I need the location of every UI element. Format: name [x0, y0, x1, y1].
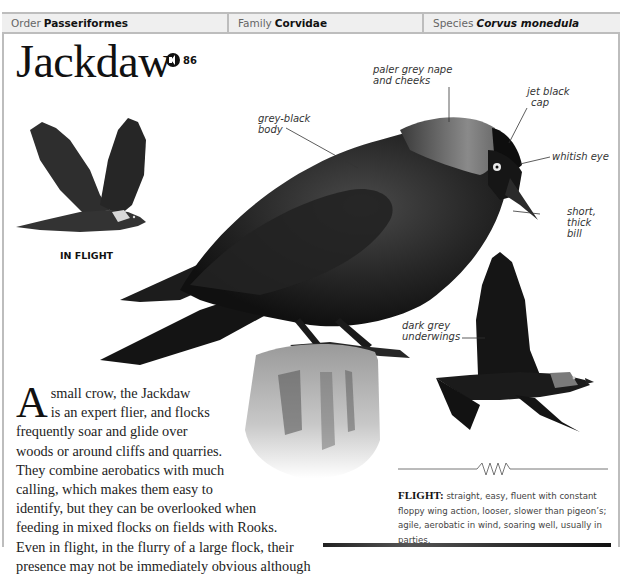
callout-nape-line2: and cheeks	[373, 75, 430, 86]
callout-bill-line3: bill	[567, 228, 582, 239]
callout-underwings-line1: dark grey	[402, 320, 450, 331]
description-line: calling, which makes them easy to	[16, 480, 336, 499]
callout-bill-line2: thick	[567, 217, 591, 228]
species-description: A small crow, the Jackdaw is an expert f…	[16, 384, 336, 576]
callout-bill-line1: short,	[567, 206, 596, 217]
description-line: is an expert flier, and flocks	[16, 403, 336, 422]
flight-label: FLIGHT:	[398, 489, 444, 501]
callout-nape: paler grey nape and cheeks	[373, 64, 452, 86]
next-photo-edge	[323, 543, 611, 547]
description-line: identify, but they can be overlooked whe…	[16, 499, 336, 518]
description-line: presence may not be immediately obvious …	[16, 557, 336, 576]
callout-cap: jet black cap	[527, 86, 570, 108]
callout-body: grey-black body	[258, 113, 310, 135]
description-line: small crow, the Jackdaw	[16, 384, 336, 403]
description-line: woods or around cliffs and quarries.	[16, 442, 336, 461]
drop-cap: A	[16, 386, 48, 420]
flight-pattern-icon	[398, 463, 608, 475]
jackdaw-flying-photo	[436, 252, 594, 432]
flight-description: FLIGHT: straight, easy, fluent with cons…	[398, 488, 612, 547]
callout-underwings-line2: underwings	[402, 331, 460, 342]
in-flight-label: IN FLIGHT	[60, 250, 113, 261]
description-line: They combine aerobatics with much	[16, 461, 336, 480]
description-line: feeding in mixed flocks on fields with R…	[16, 518, 336, 537]
callout-bill: short, thick bill	[567, 206, 596, 239]
callout-eye: whitish eye	[552, 151, 609, 162]
perched-jackdaw	[100, 117, 538, 365]
description-line: frequently soar and glide over	[16, 422, 336, 441]
in-flight-illustration	[16, 118, 146, 232]
callout-underwings: dark grey underwings	[402, 320, 460, 342]
callout-body-line2: body	[258, 124, 283, 135]
description-line: Even in flight, in the flurry of a large…	[16, 538, 336, 557]
callout-cap-line2: cap	[527, 97, 549, 108]
callout-cap-line1: jet black	[527, 86, 570, 97]
callout-nape-line1: paler grey nape	[373, 64, 452, 75]
callout-body-line1: grey-black	[258, 113, 310, 124]
